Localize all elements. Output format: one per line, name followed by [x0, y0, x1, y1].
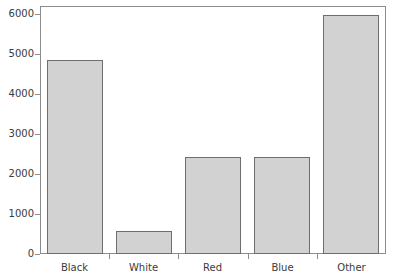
x-tick-label: Red — [178, 262, 247, 274]
y-tick-mark — [35, 254, 40, 255]
bar-white[interactable] — [116, 231, 172, 254]
x-tick-mark — [178, 254, 179, 259]
bar-black[interactable] — [47, 60, 103, 254]
y-tick-mark — [35, 54, 40, 55]
bars-layer — [0, 0, 397, 279]
x-tick-mark — [109, 254, 110, 259]
y-tick-mark — [35, 174, 40, 175]
x-tick-label: Other — [317, 262, 386, 274]
y-tick-mark — [35, 134, 40, 135]
bar-red[interactable] — [185, 157, 241, 254]
y-tick-mark — [35, 94, 40, 95]
x-tick-label: Blue — [248, 262, 317, 274]
bar-blue[interactable] — [254, 157, 310, 254]
y-tick-mark — [35, 214, 40, 215]
bar-other[interactable] — [323, 15, 379, 254]
x-tick-mark — [248, 254, 249, 259]
bar-chart: 0100020003000400050006000 BlackWhiteRedB… — [0, 0, 397, 279]
x-tick-mark — [317, 254, 318, 259]
y-tick-mark — [35, 14, 40, 15]
x-tick-label: Black — [40, 262, 109, 274]
x-axis: BlackWhiteRedBlueOther — [0, 258, 397, 279]
x-tick-label: White — [109, 262, 178, 274]
